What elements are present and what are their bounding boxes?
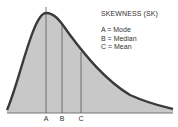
marker-label-a: A (41, 115, 51, 122)
legend: A = Mode B = Median C = Mean (101, 26, 137, 52)
diagram-title: SKEWNESS (SK) (101, 10, 158, 17)
marker-label-b: B (57, 115, 67, 122)
distribution-fill (7, 13, 173, 113)
legend-item-median: B = Median (101, 35, 137, 44)
legend-item-mean: C = Mean (101, 43, 137, 52)
marker-label-c: C (76, 115, 86, 122)
skew-curve-diagram (0, 0, 178, 127)
legend-item-mode: A = Mode (101, 26, 137, 35)
